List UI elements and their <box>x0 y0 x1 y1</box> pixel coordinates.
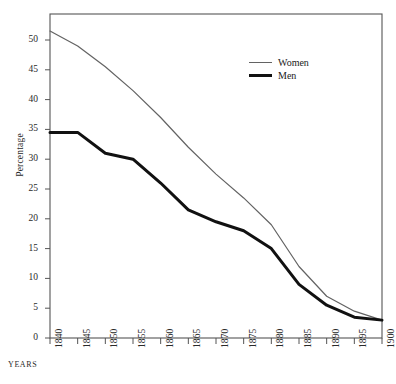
x-axis-title: YEARS <box>8 360 37 369</box>
y-tick-label: 20 <box>12 213 38 223</box>
y-tick-label: 40 <box>12 94 38 104</box>
x-tick-label: 1875 <box>248 329 258 348</box>
y-tick-label: 30 <box>12 153 38 163</box>
legend-label-men: Men <box>278 69 296 82</box>
series-lines <box>50 31 382 320</box>
y-tick-label: 10 <box>12 272 38 282</box>
y-tick-label: 0 <box>12 332 38 342</box>
x-tick-label: 1900 <box>386 329 396 348</box>
y-tick-label: 5 <box>12 302 38 312</box>
y-tick-label: 45 <box>12 64 38 74</box>
x-tick-label: 1895 <box>358 329 368 348</box>
legend-line-icon-men <box>249 74 272 77</box>
y-tick-label: 15 <box>12 243 38 253</box>
x-tick-label: 1890 <box>331 329 341 348</box>
legend-item-women: Women <box>249 56 309 69</box>
x-tick-label: 1880 <box>275 329 285 348</box>
legend-label-women: Women <box>278 56 309 69</box>
x-tick-label: 1845 <box>82 329 92 348</box>
x-tick-label: 1860 <box>165 329 175 348</box>
y-tick-marks <box>45 40 50 338</box>
x-tick-label: 1885 <box>303 329 313 348</box>
legend-line-icon-women <box>249 62 272 63</box>
x-tick-label: 1840 <box>54 329 64 348</box>
y-tick-label: 35 <box>12 123 38 133</box>
legend-item-men: Men <box>249 69 309 82</box>
x-tick-label: 1855 <box>137 329 147 348</box>
y-tick-label: 25 <box>12 183 38 193</box>
x-tick-label: 1870 <box>220 329 230 348</box>
chart-legend: Women Men <box>249 56 309 82</box>
x-tick-label: 1865 <box>192 329 202 348</box>
y-tick-label: 50 <box>12 34 38 44</box>
x-tick-label: 1850 <box>109 329 119 348</box>
